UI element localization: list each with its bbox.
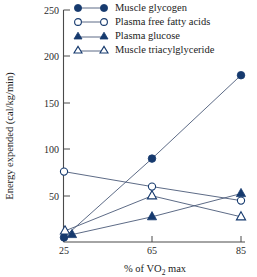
y-tick-label-50: 50 (49, 191, 59, 202)
data-point (237, 71, 245, 79)
y-tick-label-200: 200 (44, 51, 59, 62)
x-axis-title-suffix: max (165, 263, 186, 274)
y-axis-title: Energy expended (cal/kg/min) (4, 72, 16, 200)
data-point (60, 168, 67, 175)
data-point (148, 155, 156, 163)
data-point (147, 191, 156, 199)
chart-figure: Muscle glycogen Plasma free fatty acids … (0, 0, 257, 277)
x-axis-ticks: 25 65 85 (59, 236, 246, 256)
data-point (60, 234, 68, 242)
chart-plot-area: Energy expended (cal/kg/min) 250 200 150… (0, 0, 257, 277)
y-tick-label-150: 150 (44, 98, 59, 109)
x-tick-label-85: 85 (236, 245, 246, 256)
x-tick-label-25: 25 (59, 245, 69, 256)
data-point (237, 197, 244, 204)
y-tick-label-100: 100 (44, 144, 59, 155)
x-tick-label-65: 65 (147, 245, 157, 256)
x-axis-title: % of VO2 max (124, 263, 187, 277)
data-point (148, 183, 155, 190)
data-point (236, 188, 245, 196)
y-tick-label-250: 250 (44, 5, 59, 16)
series-plasma-glucose (67, 188, 245, 237)
x-axis-title-prefix: % of VO (124, 263, 162, 274)
